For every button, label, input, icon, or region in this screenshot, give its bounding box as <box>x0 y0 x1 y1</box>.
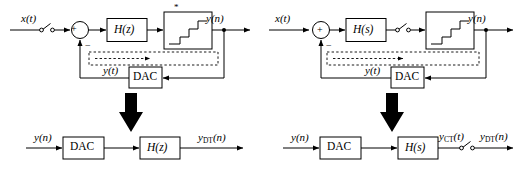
ol-dac-block-label: DAC <box>70 141 94 153</box>
figure-canvas: x(t) + − H(z) * y(n) y(t) DAC y(n) DAC H… <box>0 0 522 175</box>
label-output-yn: y(n) <box>206 13 224 24</box>
ol-dac-block-label: DAC <box>327 141 351 153</box>
dac-block-label: DAC <box>395 71 419 83</box>
ol-sampler-contact-left <box>460 146 464 150</box>
summing-plus-sign: + <box>317 25 323 35</box>
controller-block-label-hz: H(z) <box>114 24 134 36</box>
summing-minus-sign: − <box>326 41 332 51</box>
dac-block-label: DAC <box>133 71 157 83</box>
label-input-xt: x(t) <box>275 13 290 24</box>
summing-minus-sign: − <box>85 41 91 51</box>
ol-plant-block-label-hs: H(s) <box>405 142 425 154</box>
ol-output-sub: DT <box>485 135 495 144</box>
controller-block-label-hs: H(s) <box>353 24 373 36</box>
label-feedback-yt: y(t) <box>103 65 118 76</box>
adc-staircase-block <box>164 12 212 49</box>
sampler-contact-right <box>407 28 411 32</box>
sampler-contact-right <box>51 28 55 32</box>
ol-plant-block-label-hz: H(z) <box>147 142 167 154</box>
ol-output-arg: (n) <box>213 131 226 143</box>
ol-sampler-contact-right <box>471 146 475 150</box>
label-input-xt: x(t) <box>21 13 36 24</box>
sampler-contact-left <box>40 28 44 32</box>
ol-output-arg: (n) <box>495 130 508 142</box>
down-arrow-icon <box>380 93 404 132</box>
ol-mid-arg: (t) <box>453 130 463 142</box>
down-arrow-icon <box>119 93 143 132</box>
panel-left: x(t) + − H(z) * y(n) y(t) DAC y(n) DAC H… <box>0 0 261 175</box>
ol-label-input-yn: y(n) <box>34 132 52 143</box>
right-panel-vector <box>261 0 522 175</box>
label-feedback-yt: y(t) <box>365 65 380 76</box>
star-marker: * <box>174 3 179 12</box>
sampler-contact-left <box>396 28 400 32</box>
ol-label-mid-yct: yCT(t) <box>439 131 464 142</box>
ol-output-sub: DT <box>203 136 213 145</box>
ol-mid-sub: CT <box>444 135 454 144</box>
ol-label-output-ydt: yDT(n) <box>198 132 226 143</box>
adc-staircase-block <box>426 12 474 49</box>
summing-plus-sign: + <box>71 24 77 34</box>
ol-label-input-yn: y(n) <box>291 132 309 143</box>
label-output-yn: y(n) <box>468 13 486 24</box>
panel-right: x(t) + − H(s) y(n) y(t) DAC y(n) DAC H(s… <box>261 0 522 175</box>
ol-label-output-ydt: yDT(n) <box>480 131 508 142</box>
